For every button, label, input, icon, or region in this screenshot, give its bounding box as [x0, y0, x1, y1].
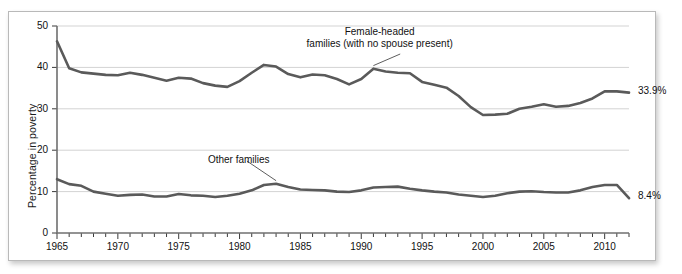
annotation-line: families (with no spouse present): [307, 38, 453, 50]
x-axis-tick-label: 2010: [587, 241, 623, 252]
x-axis-tick-label: 1980: [222, 241, 258, 252]
series-annotation-female-headed: Female-headedfamilies (with no spouse pr…: [307, 26, 453, 50]
x-axis-tickmarks: [52, 26, 629, 239]
end-value-label-female-headed: 33.9%: [638, 85, 666, 96]
y-axis-tick-label: 0: [26, 227, 48, 238]
gridlines: [57, 26, 629, 192]
end-value-label-other-families: 8.4%: [638, 190, 661, 201]
x-axis-tick-label: 1990: [343, 241, 379, 252]
figure-frame: Percentage in poverty 01020304050 196519…: [8, 11, 656, 261]
x-axis-tick-label: 1995: [404, 241, 440, 252]
annotation-line: Other families: [208, 154, 270, 166]
annotation-line: Female-headed: [307, 26, 453, 38]
annotation-leader-line-female-headed: [373, 54, 400, 66]
x-axis-tick-label: 1975: [161, 241, 197, 252]
x-axis-tick-label: 1985: [282, 241, 318, 252]
series-annotation-other-families: Other families: [208, 154, 270, 166]
x-axis-tick-label: 1970: [100, 241, 136, 252]
y-axis-tick-label: 20: [26, 144, 48, 155]
x-axis-tick-label: 2005: [526, 241, 562, 252]
top-caption-strip: [0, 0, 682, 9]
x-axis-tick-label: 1965: [39, 241, 75, 252]
y-axis-tick-label: 50: [26, 20, 48, 31]
chart-screenshot: Percentage in poverty 01020304050 196519…: [0, 0, 682, 274]
y-axis-tick-label: 10: [26, 186, 48, 197]
series-line-female-headed-families: [57, 41, 629, 115]
y-axis-tick-label: 30: [26, 103, 48, 114]
x-axis-tick-label: 2000: [465, 241, 501, 252]
series-line-other-families: [57, 179, 629, 198]
y-axis-tick-label: 40: [26, 61, 48, 72]
